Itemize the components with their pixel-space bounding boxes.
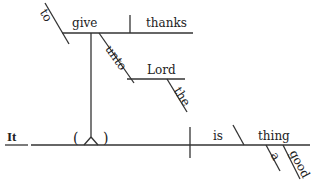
word-thing: thing <box>258 130 290 142</box>
word-lord: Lord <box>147 64 176 76</box>
word-thanks: thanks <box>146 17 187 29</box>
word-give: give <box>72 17 97 29</box>
placeholder-parens: ( ) <box>73 131 118 145</box>
word-it: It <box>7 130 16 143</box>
sentence-diagram: to give thanks unto Lord the It ( ) is t… <box>0 0 318 183</box>
word-is: is <box>213 130 223 142</box>
